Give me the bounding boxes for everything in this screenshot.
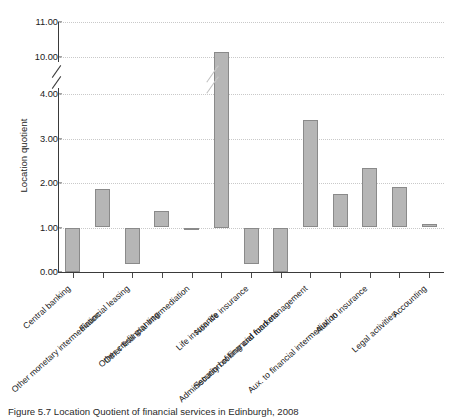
x-tick-mark [103,273,104,278]
y-tick-label: 0.00 [14,267,58,277]
x-tick-mark [132,273,133,278]
gridline [58,183,444,184]
bar [65,228,80,273]
x-tick-mark [281,273,282,278]
x-tick-label: Legal activities [350,309,399,354]
bar [244,228,259,264]
x-tick-mark [73,273,74,278]
figure-chart: Location quotient 0.001.002.003.004.0010… [0,0,452,417]
x-tick-label: Accounting [390,283,428,319]
bar [362,168,377,227]
bar [392,187,407,228]
x-tick-label: Aux. to insurance [313,283,369,335]
x-tick-mark [340,273,341,278]
bar [422,224,437,227]
x-tick-mark [370,273,371,278]
x-tick-label: Non-life insurance [192,283,250,337]
x-tick-mark [192,273,193,278]
bar [184,228,199,231]
x-tick-label: Security broking and fund management [192,283,310,391]
y-tick-label: 2.00 [14,178,58,188]
y-tick-label: 1.00 [14,223,58,233]
bar [333,194,348,228]
x-tick-mark [251,273,252,278]
bar [273,228,288,273]
gridline [58,22,444,23]
y-tick-label: 11.00 [14,17,58,27]
gridline [58,139,444,140]
figure-caption: Figure 5.7 Location Quotient of financia… [8,406,299,417]
gridline [58,57,444,58]
y-tick-label: 3.00 [14,134,58,144]
bar [303,120,318,228]
x-tick-label: Financial leasing [77,283,131,333]
bar [154,211,169,228]
y-axis-line [58,22,59,272]
x-tick-mark [221,273,222,278]
x-tick-mark [429,273,430,278]
x-tick-mark [310,273,311,278]
gridline [58,94,444,95]
x-tick-mark [162,273,163,278]
bar [95,189,110,228]
bar [125,228,140,264]
y-tick-label: 4.00 [14,89,58,99]
y-tick-label: 10.00 [14,52,58,62]
x-tick-mark [399,273,400,278]
